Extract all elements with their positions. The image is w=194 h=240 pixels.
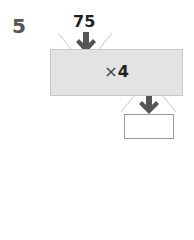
answer-input-box[interactable] [124, 114, 174, 139]
